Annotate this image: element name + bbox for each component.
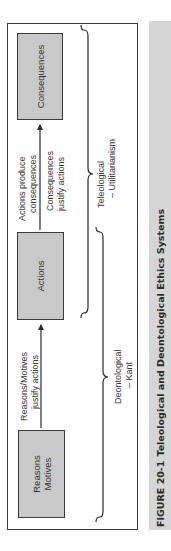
reasons-justify-line-1: Reasons/Motives — [19, 352, 30, 421]
deontological-line-2: – Kant — [124, 349, 135, 404]
consequences-justify-line-1: Consequences — [45, 151, 56, 211]
connector-lines — [0, 0, 171, 551]
deontological-line-1: Deontological — [113, 349, 124, 404]
figure-caption: FIGURE 20-1 Teleological and Deontologic… — [149, 21, 171, 530]
teleological-brace — [81, 25, 93, 318]
reasons-justify-line-2: justify actions — [30, 352, 41, 421]
deontological-brace — [96, 227, 108, 522]
consequences-justify-label: Consequences justify actions — [45, 151, 66, 211]
rotated-figure: Reasons Motives Actions Consequences Rea… — [0, 0, 171, 551]
figure-title: Teleological and Deontological Ethics Sy… — [155, 209, 166, 457]
figure-number: FIGURE 20-1 — [155, 461, 166, 527]
actions-produce-line-2: consequences — [28, 155, 39, 221]
teleological-line-1: Teleological — [96, 139, 107, 208]
actions-produce-label: Actions produce consequences — [17, 155, 38, 221]
reasons-justify-label: Reasons/Motives justify actions — [19, 352, 40, 421]
deontological-label: Deontological – Kant — [113, 349, 134, 404]
consequences-justify-line-2: justify actions — [56, 151, 67, 211]
teleological-label: Teleological – Utilitarianism — [96, 139, 117, 208]
teleological-line-2: – Utilitarianism — [107, 139, 118, 208]
actions-produce-line-1: Actions produce — [17, 155, 28, 221]
